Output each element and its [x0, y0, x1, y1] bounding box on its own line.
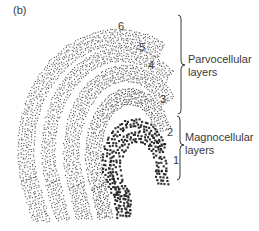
magnocellular-line2: layers: [185, 144, 253, 157]
layer-3-label: 3: [160, 93, 166, 105]
layer-2-label: 2: [167, 126, 173, 138]
lgn-layers-figure: (b) 6 5 4 3 2 1 Parvocellular layers Mag…: [0, 0, 259, 231]
parvocellular-line2: layers: [188, 66, 252, 79]
panel-label: (b): [13, 4, 26, 16]
magnocellular-brace: [177, 116, 184, 180]
parvocellular-brace: [178, 15, 185, 114]
magnocellular-label: Magnocellular layers: [185, 131, 253, 157]
parvocellular-line1: Parvocellular: [188, 53, 252, 66]
parvocellular-label: Parvocellular layers: [188, 53, 252, 79]
layer-1-label: 1: [173, 154, 179, 166]
layer-6-label: 6: [118, 20, 124, 32]
dotted-layer-diagram: [0, 0, 259, 231]
magnocellular-line1: Magnocellular: [185, 131, 253, 144]
layer-5-label: 5: [139, 41, 145, 53]
layer-4-label: 4: [148, 59, 154, 71]
